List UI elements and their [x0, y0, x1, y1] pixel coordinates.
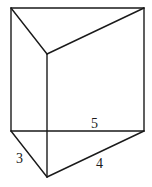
label-long-leg: 4 — [96, 156, 103, 171]
top-right-edge — [47, 8, 144, 54]
label-short-leg: 3 — [16, 151, 23, 166]
top-left-edge — [11, 8, 47, 54]
triangular-prism-diagram: 5 3 4 — [0, 0, 152, 187]
label-hypotenuse: 5 — [91, 116, 98, 131]
